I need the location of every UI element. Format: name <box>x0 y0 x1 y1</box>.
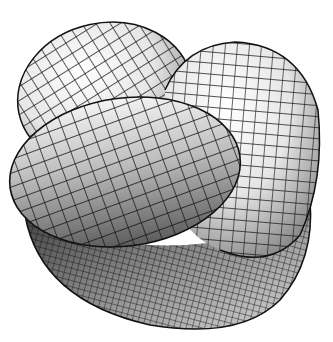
surface-render <box>0 0 333 342</box>
figure-canvas <box>0 0 333 342</box>
